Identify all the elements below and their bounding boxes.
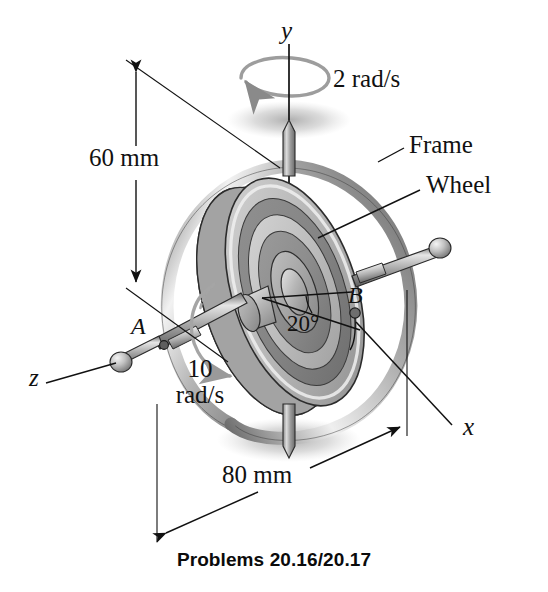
spin-rate-value: 10	[164, 356, 236, 382]
frame-leader	[378, 148, 404, 162]
precession-rate-label: 2 rad/s	[333, 66, 400, 92]
x-axis-label: x	[463, 414, 474, 440]
z-axis-line	[46, 363, 116, 383]
spin-rate-unit: rad/s	[164, 382, 236, 408]
figure-container: y x z 2 rad/s 10 rad/s 60 mm 80 mm 20° F…	[0, 0, 548, 592]
angle-label: 20°	[287, 312, 319, 336]
wheel-callout-label: Wheel	[426, 172, 491, 198]
frame-callout-label: Frame	[409, 132, 473, 158]
pivot-pin-top	[283, 120, 295, 176]
callout-leaders	[318, 148, 420, 238]
point-a-marker	[160, 341, 169, 350]
figure-caption: Problems 20.16/20.17	[0, 549, 548, 571]
right-shaft-ball	[429, 238, 451, 258]
point-b-label: B	[348, 283, 363, 308]
y-axis-label: y	[281, 18, 292, 44]
point-a-label: A	[131, 314, 146, 339]
dimension-80mm-label: 80 mm	[222, 462, 292, 488]
left-shaft-ball	[110, 352, 132, 372]
mechanics-diagram	[0, 0, 548, 592]
dimension-60mm-label: 60 mm	[89, 145, 159, 171]
z-axis-label: z	[29, 365, 39, 391]
pivot-pin-bottom	[283, 404, 295, 458]
precession-arrow	[241, 58, 329, 96]
spin-rate-label: 10 rad/s	[164, 356, 236, 408]
